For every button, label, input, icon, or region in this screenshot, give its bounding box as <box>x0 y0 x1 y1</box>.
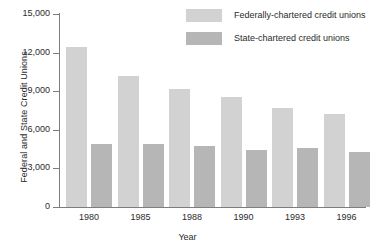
y-tick-label: 6,000 <box>2 125 50 134</box>
y-axis-line <box>59 13 60 208</box>
bar-state-chartered <box>143 144 164 207</box>
y-tick-mark <box>53 168 59 169</box>
y-tick-mark <box>53 14 59 15</box>
x-axis-title: Year <box>0 232 375 242</box>
bar-group <box>66 14 112 207</box>
y-tick-label: 3,000 <box>2 163 50 172</box>
bar-group <box>118 14 164 207</box>
legend-label-state-chartered: State-chartered credit unions <box>234 33 350 44</box>
bar-state-chartered <box>297 148 318 207</box>
bar-state-chartered <box>246 150 267 207</box>
y-tick-mark <box>53 91 59 92</box>
bar-federally-chartered <box>272 108 293 207</box>
legend-swatch-icon-federally-chartered <box>186 9 222 22</box>
y-tick-label: 9,000 <box>2 86 50 95</box>
legend-swatch-icon-state-chartered <box>186 32 222 45</box>
x-axis-line <box>59 207 366 208</box>
bar-state-chartered <box>91 144 112 207</box>
y-tick-label: 0 <box>2 202 50 211</box>
y-tick-mark <box>53 207 59 208</box>
legend-label-federally-chartered: Federally-chartered credit unions <box>234 10 366 21</box>
y-tick-label: 12,000 <box>2 48 50 57</box>
y-tick-label: 15,000 <box>2 9 50 18</box>
bar-federally-chartered <box>169 89 190 207</box>
x-tick-label: 1996 <box>312 212 375 222</box>
bar-federally-chartered <box>221 97 242 207</box>
bar-state-chartered <box>349 152 370 207</box>
bar-federally-chartered <box>66 47 87 207</box>
bar-state-chartered <box>194 146 215 207</box>
bar-chart: Federal and State Credit Unions 03,0006,… <box>0 0 375 249</box>
bar-federally-chartered <box>118 76 139 207</box>
bar-federally-chartered <box>324 114 345 207</box>
y-tick-mark <box>53 130 59 131</box>
y-tick-mark <box>53 53 59 54</box>
